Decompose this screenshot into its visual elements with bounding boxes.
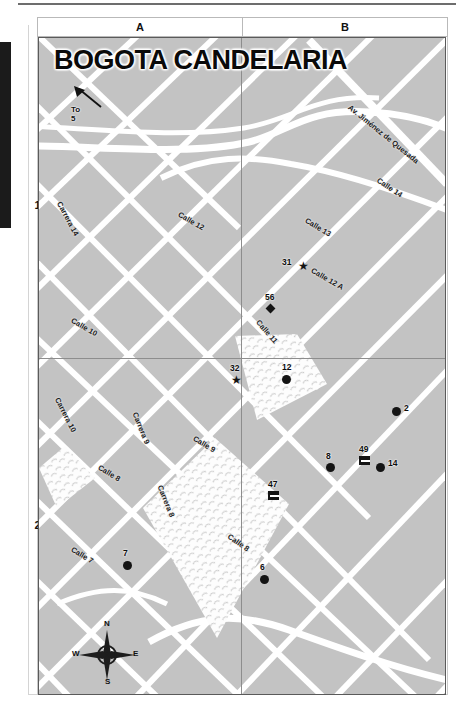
marker-label: 49 bbox=[359, 444, 368, 454]
dot-icon bbox=[392, 407, 401, 416]
marker-label: 56 bbox=[265, 292, 274, 302]
dot-icon bbox=[260, 575, 269, 584]
marker-label: 47 bbox=[268, 479, 277, 489]
compass-north-label: N bbox=[104, 619, 110, 628]
star-icon: ★ bbox=[231, 376, 242, 385]
map-canvas[interactable]: BOGOTA CANDELARIA To 5 Carrera 14 Calle … bbox=[38, 37, 446, 695]
grid-column-header: A B bbox=[37, 17, 448, 37]
marker-label: 32 bbox=[230, 363, 239, 373]
compass-south-label: S bbox=[105, 677, 110, 686]
marker-label: 6 bbox=[260, 562, 265, 572]
compass-rose: N S E W bbox=[67, 620, 147, 690]
to-5-label: To 5 bbox=[71, 105, 80, 123]
marker-label: 8 bbox=[326, 451, 331, 461]
dot-icon bbox=[326, 463, 335, 472]
dot-icon bbox=[376, 463, 385, 472]
marker-label: 14 bbox=[388, 458, 397, 468]
grid-divider-vertical bbox=[241, 38, 242, 695]
compass-west-label: W bbox=[72, 649, 80, 658]
grid-column-b[interactable]: B bbox=[243, 18, 447, 36]
dot-icon bbox=[123, 561, 132, 570]
page-edge-artifact bbox=[0, 42, 11, 228]
lodging-icon bbox=[359, 456, 370, 465]
lodging-icon bbox=[268, 491, 279, 500]
grid-divider-horizontal bbox=[39, 358, 446, 359]
marker-label: 12 bbox=[282, 362, 291, 372]
marker-label: 7 bbox=[123, 548, 128, 558]
marker-label: 31 bbox=[282, 257, 291, 267]
grid-column-a[interactable]: A bbox=[38, 18, 243, 36]
page-top-rule bbox=[18, 3, 456, 5]
dot-icon bbox=[282, 375, 291, 384]
marker-label: 2 bbox=[404, 403, 409, 413]
star-icon: ★ bbox=[298, 262, 309, 271]
compass-east-label: E bbox=[133, 649, 138, 658]
map-title: BOGOTA CANDELARIA bbox=[54, 45, 347, 76]
